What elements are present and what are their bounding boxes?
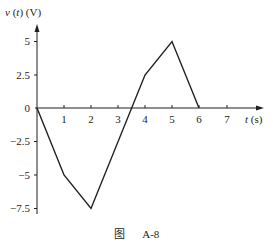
y-tick-label: −7.5 [0, 203, 30, 214]
x-tick-label: 6 [193, 114, 205, 125]
y-tick-label: 5 [0, 36, 30, 47]
y-label-var: v [5, 6, 10, 18]
x-tick-label: 3 [112, 114, 124, 125]
series-line-v-t [37, 42, 199, 209]
y-tick-label: −5 [0, 170, 30, 181]
y-tick-label: 0 [0, 103, 30, 114]
y-label-arg: (t) [13, 6, 23, 18]
x-tick-label: 4 [139, 114, 151, 125]
x-label-unit: (s) [251, 113, 263, 125]
x-tick-label: 1 [58, 114, 70, 125]
caption-prefix: 图 [114, 228, 125, 240]
x-axis-arrow-icon [256, 106, 264, 111]
x-tick-label: 2 [85, 114, 97, 125]
x-axis-label: t (s) [245, 114, 262, 125]
y-axis-label: v (t) (V) [5, 7, 41, 18]
y-axis-arrow-icon [35, 24, 40, 32]
figure-caption: 图 A-8 [0, 225, 273, 241]
y-tick-label: −2.5 [0, 136, 30, 147]
x-label-var: t [245, 113, 248, 125]
y-tick-label: 2.5 [0, 70, 30, 81]
caption-id: A-8 [142, 228, 159, 240]
x-tick-label: 7 [221, 114, 233, 125]
x-tick-label: 5 [166, 114, 178, 125]
y-label-unit: (V) [26, 6, 41, 18]
